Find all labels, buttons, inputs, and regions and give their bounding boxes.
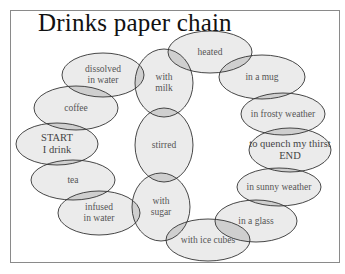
paper-chain-diagram [0,0,345,274]
chain-links [16,31,331,261]
